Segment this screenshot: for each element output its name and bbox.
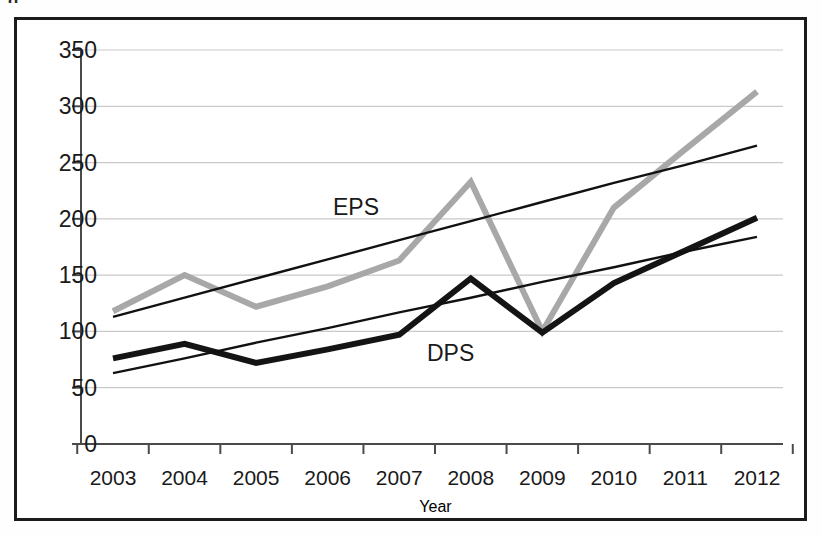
y-axis-tick-label: 0	[45, 431, 97, 458]
x-axis-tick-label: 2011	[663, 466, 708, 490]
x-axis-tick-label: 2012	[734, 466, 781, 490]
series-label-dps: DPS	[427, 340, 474, 367]
chart-frame: 350300250200150100500 200320042005200620…	[14, 17, 807, 521]
cropped-top-text: g	[8, 0, 19, 3]
x-axis-title: Year	[113, 498, 758, 516]
y-axis-tick-label: 250	[45, 149, 97, 176]
y-axis-tick-label: 150	[45, 262, 97, 289]
x-axis-tick-label: 2006	[304, 466, 351, 490]
y-axis-tick-labels: 350300250200150100500	[35, 20, 97, 518]
chart-plot-area	[17, 20, 810, 524]
gridlines-group	[81, 50, 783, 388]
y-axis-tick-label: 50	[45, 374, 97, 401]
x-axis-tick-label: 2010	[591, 466, 638, 490]
line-chart: 350300250200150100500 200320042005200620…	[17, 20, 804, 518]
x-axis-tick-label: 2003	[90, 466, 137, 490]
series-label-eps: EPS	[333, 194, 379, 221]
axis-lines-group	[81, 50, 783, 444]
x-axis-tick-label: 2007	[376, 466, 423, 490]
x-axis-tick-label: 2009	[519, 466, 566, 490]
screenshot-root: g 350300250200150100500 2003200420052006…	[0, 0, 821, 536]
y-axis-tick-label: 200	[45, 205, 97, 232]
x-axis-tick-label: 2004	[161, 466, 208, 490]
y-axis-tick-label: 350	[45, 37, 97, 64]
y-axis-tick-label: 300	[45, 93, 97, 120]
x-axis-tick-label: 2005	[233, 466, 280, 490]
series-line-eps	[113, 92, 757, 332]
y-axis-tick-label: 100	[45, 318, 97, 345]
series-line-eps-trendline	[113, 146, 757, 317]
x-axis-tick-label: 2008	[447, 466, 494, 490]
